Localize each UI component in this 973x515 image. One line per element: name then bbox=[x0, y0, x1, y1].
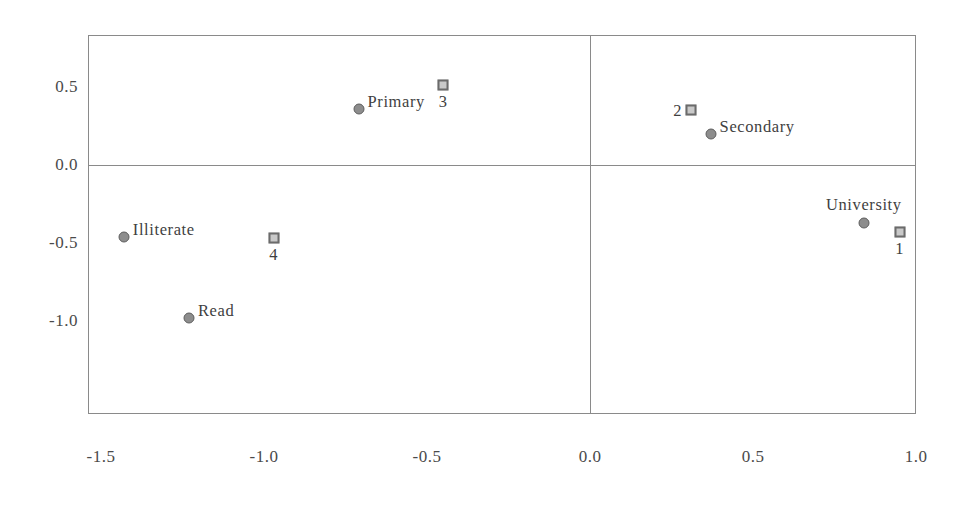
plot-frame bbox=[88, 35, 916, 414]
data-point-square-marker bbox=[438, 80, 449, 91]
y-axis-tick-label: 0.0 bbox=[0, 155, 78, 175]
x-axis-tick-label: 0.5 bbox=[713, 447, 793, 467]
data-point-label: Read bbox=[198, 301, 234, 321]
y-axis-tick-label: 0.5 bbox=[0, 77, 78, 97]
data-point-circle-marker bbox=[118, 231, 129, 242]
data-point-circle-marker bbox=[184, 312, 195, 323]
data-point-label: Primary bbox=[368, 92, 425, 112]
horizontal-zero-axis-line bbox=[88, 165, 916, 166]
x-axis-tick-label: 1.0 bbox=[876, 447, 956, 467]
data-point-square-marker bbox=[268, 233, 279, 244]
data-point-label: 4 bbox=[269, 245, 278, 265]
data-point-label: Illiterate bbox=[133, 220, 195, 240]
y-axis-tick-label: -1.0 bbox=[0, 311, 78, 331]
x-axis-tick-label: -0.5 bbox=[387, 447, 467, 467]
data-point-circle-marker bbox=[353, 103, 364, 114]
y-axis-tick-label: -0.5 bbox=[0, 233, 78, 253]
data-point-label: University bbox=[826, 195, 902, 215]
data-point-label: Secondary bbox=[720, 117, 795, 137]
data-point-circle-marker bbox=[705, 128, 716, 139]
vertical-zero-axis-line bbox=[590, 35, 591, 414]
data-point-circle-marker bbox=[858, 217, 869, 228]
data-point-label: 2 bbox=[673, 101, 682, 121]
data-point-square-marker bbox=[894, 227, 905, 238]
data-point-label: 1 bbox=[895, 239, 904, 259]
x-axis-tick-label: -1.0 bbox=[224, 447, 304, 467]
data-point-label: 3 bbox=[439, 92, 448, 112]
x-axis-tick-label: 0.0 bbox=[550, 447, 630, 467]
x-axis-tick-label: -1.5 bbox=[61, 447, 141, 467]
scatter-plot: 0.50.0-0.5-1.0 -1.5-1.0-0.50.00.51.0 Pri… bbox=[0, 0, 973, 515]
data-point-square-marker bbox=[686, 105, 697, 116]
